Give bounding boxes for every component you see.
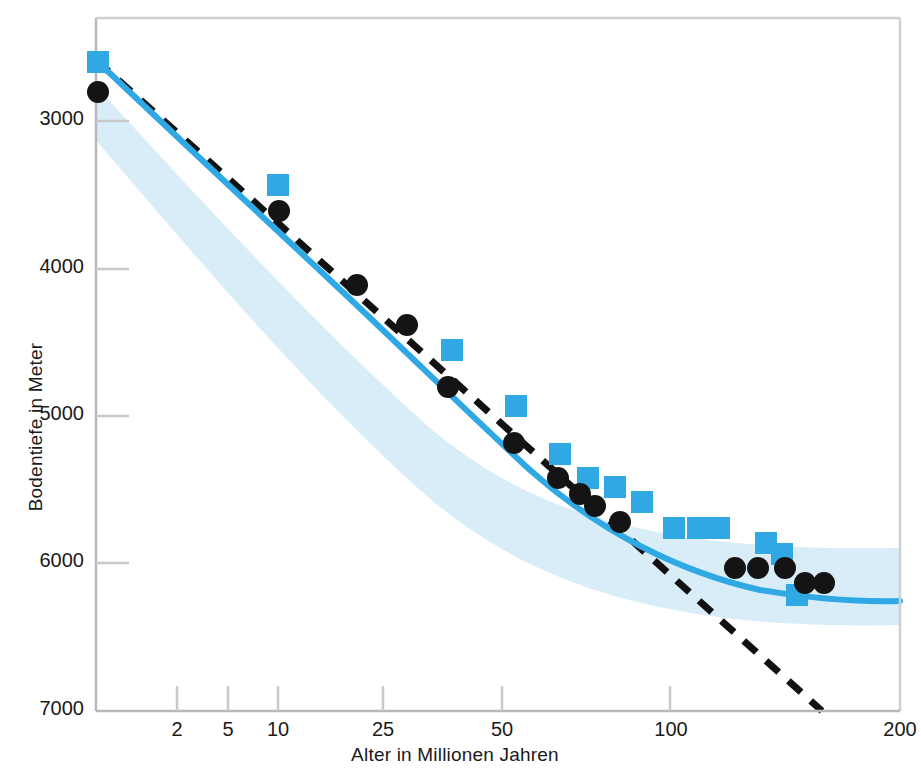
xtick-label-200: 200 — [865, 718, 921, 741]
data-point-circle — [87, 81, 109, 103]
data-point-square — [687, 517, 709, 539]
ytick-label-4000: 4000 — [0, 255, 84, 278]
data-point-circle — [396, 314, 418, 336]
data-point-square — [505, 395, 527, 417]
data-point-circle — [724, 557, 746, 579]
ytick-label-3000: 3000 — [0, 107, 84, 130]
data-point-circle — [584, 495, 606, 517]
xtick-label-100: 100 — [636, 718, 706, 741]
data-point-circle — [547, 467, 569, 489]
ytick-label-6000: 6000 — [0, 549, 84, 572]
confidence-band — [96, 34, 900, 625]
data-point-square — [549, 443, 571, 465]
series-squares — [87, 51, 808, 606]
x-axis-title: Alter in Millionen Jahren — [0, 744, 910, 766]
data-point-circle — [346, 274, 368, 296]
x-tick-marks — [177, 686, 670, 711]
data-point-square — [631, 491, 653, 513]
data-point-square — [441, 339, 463, 361]
data-point-square — [663, 517, 685, 539]
data-point-square — [267, 174, 289, 196]
data-point-square — [87, 51, 109, 73]
ytick-label-7000: 7000 — [0, 697, 84, 720]
data-point-circle — [437, 376, 459, 398]
data-point-circle — [503, 432, 525, 454]
data-point-square — [604, 476, 626, 498]
data-point-circle — [794, 572, 816, 594]
xtick-label-25: 25 — [353, 718, 413, 741]
data-point-circle — [609, 511, 631, 533]
data-point-square — [708, 517, 730, 539]
data-point-circle — [813, 572, 835, 594]
data-point-circle — [774, 557, 796, 579]
xtick-label-50: 50 — [472, 718, 532, 741]
xtick-label-10: 10 — [248, 718, 308, 741]
y-tick-marks — [96, 121, 129, 563]
data-point-circle — [747, 557, 769, 579]
data-point-circle — [268, 200, 290, 222]
y-axis-title: Bodentiefe in Meter — [25, 317, 47, 537]
